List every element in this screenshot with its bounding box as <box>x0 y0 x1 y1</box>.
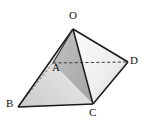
vertex-label-o: O <box>69 10 77 21</box>
vertex-label-c: C <box>89 107 96 118</box>
vertex-label-a: A <box>52 62 60 73</box>
vertex-label-b: B <box>6 98 13 109</box>
pyramid-figure: O A B C D <box>0 0 146 125</box>
vertex-label-d: D <box>130 55 138 66</box>
